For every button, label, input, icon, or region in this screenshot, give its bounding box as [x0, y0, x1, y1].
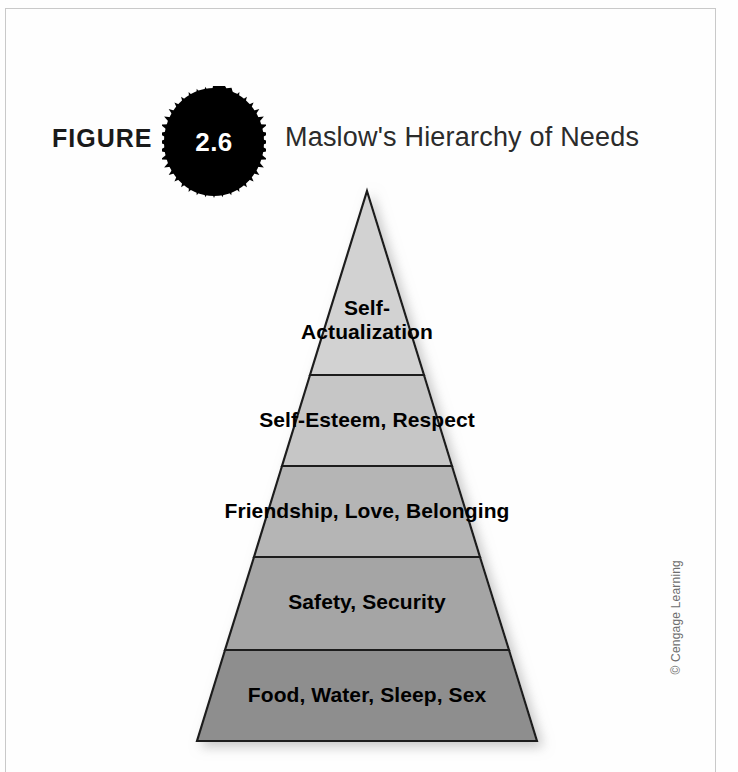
pyramid-tier-label-physiological: Food, Water, Sleep, Sex: [117, 683, 617, 707]
figure-page: FIGURE: [0, 0, 738, 772]
pyramid-tier-self-actualization: [310, 191, 424, 375]
pyramid-tier-label-friendship: Friendship, Love, Belonging: [167, 499, 567, 523]
pyramid-tier-label-self-esteem: Self-Esteem, Respect: [207, 408, 527, 432]
pyramid-tier-label-self-actualization: Self- Actualization: [247, 296, 487, 345]
maslow-pyramid-diagram: Self- Actualization Self-Esteem, Respect…: [0, 0, 738, 772]
pyramid-tier-label-safety: Safety, Security: [147, 590, 587, 614]
copyright-attribution: © Cengage Learning: [669, 560, 683, 675]
